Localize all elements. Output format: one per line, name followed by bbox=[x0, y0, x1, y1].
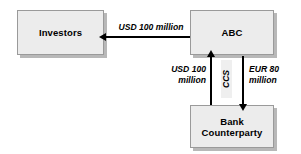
node-investors: Investors bbox=[17, 10, 104, 55]
node-bank-counterparty-label: Bank Counterparty bbox=[202, 116, 263, 138]
edge-label-bank-to-abc: USD 100 million bbox=[158, 64, 206, 85]
node-investors-label: Investors bbox=[39, 27, 82, 38]
annotation-ccs: CCS bbox=[221, 60, 232, 98]
arrow-abc-to-investors bbox=[105, 36, 190, 38]
arrow-abc-to-bank bbox=[242, 56, 244, 105]
edge-label-abc-to-investors: USD 100 million bbox=[112, 22, 190, 33]
annotation-ccs-label: CCS bbox=[222, 70, 232, 88]
arrowhead-up-icon bbox=[207, 50, 215, 57]
arrowhead-down-icon bbox=[239, 104, 247, 111]
node-bank-counterparty: Bank Counterparty bbox=[190, 105, 274, 148]
edge-label-abc-to-bank: EUR 80 million bbox=[249, 64, 297, 85]
diagram-canvas: Investors ABC Bank Counterparty USD 100 … bbox=[0, 0, 301, 154]
arrowhead-left-icon bbox=[99, 33, 106, 41]
node-abc-label: ABC bbox=[222, 27, 243, 38]
node-abc: ABC bbox=[190, 10, 274, 55]
arrow-bank-to-abc bbox=[210, 56, 212, 105]
